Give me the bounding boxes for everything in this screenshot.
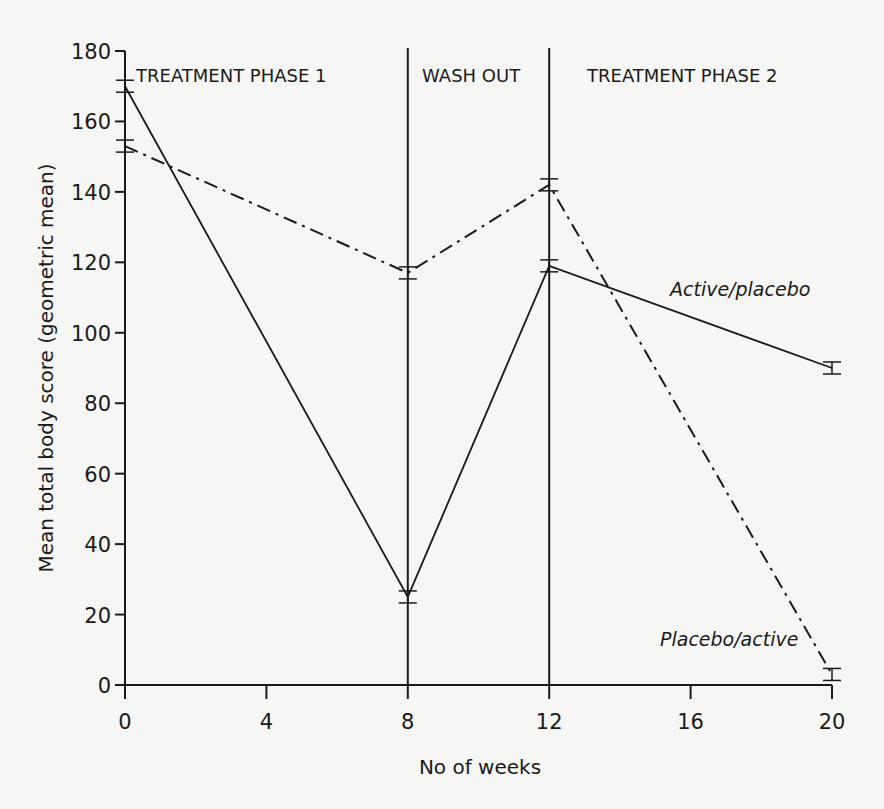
y-tick-label: 120 [71,251,111,275]
y-tick-label: 140 [71,181,111,205]
x-tick-label: 16 [677,710,704,734]
y-tick-label: 60 [84,463,111,487]
x-tick-label: 8 [401,710,414,734]
y-tick-label: 180 [71,40,111,64]
y-tick-label: 80 [84,392,111,416]
legend-label-active-placebo: Active/placebo [668,278,810,300]
y-tick-label: 0 [98,674,111,698]
series-line-placebo-active [125,146,832,674]
x-tick-label: 4 [260,710,273,734]
phase-label-washout: WASH OUT [422,65,521,86]
phase-label-treatment-1: TREATMENT PHASE 1 [135,65,327,86]
legend-label-placebo-active: Placebo/active [660,628,798,650]
y-tick-label: 40 [84,533,111,557]
x-tick-label: 12 [536,710,563,734]
phase-label-treatment-2: TREATMENT PHASE 2 [586,65,778,86]
phase-dividers [408,48,549,685]
y-tick-label: 20 [84,604,111,628]
x-axis-title: No of weeks [419,755,541,779]
series-lines [116,80,841,680]
y-tick-label: 100 [71,322,111,346]
y-axis-title: Mean total body score (geometric mean) [34,163,58,572]
x-tick-label: 0 [118,710,131,734]
series-line-active-placebo [125,86,832,597]
y-tick-label: 160 [71,110,111,134]
x-tick-label: 20 [819,710,846,734]
line-chart: 020406080100120140160180048121620 TREATM… [0,0,884,809]
